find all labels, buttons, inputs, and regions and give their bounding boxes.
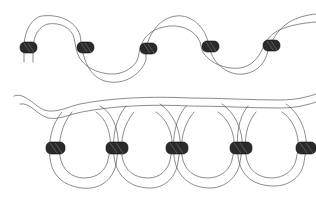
- bead-icon: [140, 43, 157, 54]
- bead-icon: [20, 42, 37, 53]
- bead-icon: [77, 42, 94, 53]
- top-beads: [20, 40, 280, 54]
- bead-icon: [106, 142, 128, 154]
- bead-icon: [230, 142, 252, 154]
- bead-icon: [202, 41, 219, 52]
- bead-icon: [166, 142, 188, 154]
- bead-icon: [263, 40, 280, 51]
- bead-icon: [296, 142, 316, 154]
- bottom-beads: [46, 142, 316, 154]
- bead-cord-illustration: [0, 0, 316, 206]
- bead-icon: [46, 142, 65, 154]
- bottom-looped-strand: [14, 94, 316, 188]
